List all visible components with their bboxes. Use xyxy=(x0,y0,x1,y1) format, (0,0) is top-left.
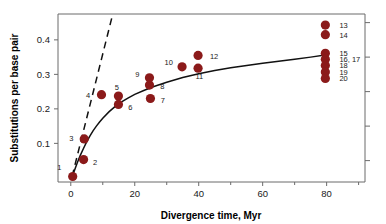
chart-canvas: 12345678910111213141516, 17181920 020406… xyxy=(0,0,386,224)
y-axis-title: Substitutions per base pair xyxy=(9,33,20,162)
x-tick-label: 0 xyxy=(68,188,73,199)
data-point-label: 10 xyxy=(164,58,172,67)
data-point-label: 8 xyxy=(160,82,164,91)
data-point-label: 20 xyxy=(339,74,347,83)
data-point-markers xyxy=(68,20,330,181)
data-point-label: 7 xyxy=(161,96,165,105)
data-point-marker xyxy=(321,30,330,39)
data-point-label: 12 xyxy=(210,52,218,61)
data-point-label: 3 xyxy=(69,134,73,143)
data-point-label: 14 xyxy=(339,31,347,40)
data-point-label: 11 xyxy=(195,72,203,81)
data-point-marker xyxy=(146,94,155,103)
y-axis-tick-labels: 0.10.20.30.4 xyxy=(37,34,50,148)
y-tick-label: 0.1 xyxy=(37,138,50,149)
y-tick-label: 0.4 xyxy=(37,34,50,45)
x-tick-label: 60 xyxy=(257,188,268,199)
data-point-label: 1 xyxy=(57,163,61,172)
y-tick-label: 0.2 xyxy=(37,103,50,114)
data-point-marker xyxy=(97,90,106,99)
data-point-label: 6 xyxy=(128,103,132,112)
linear-extrapolation-dashed-line xyxy=(72,14,113,176)
data-point-marker xyxy=(80,134,89,143)
x-axis-major-ticks xyxy=(71,182,327,186)
y-tick-label: 0.3 xyxy=(37,69,50,80)
x-tick-label: 80 xyxy=(321,188,332,199)
data-point-marker xyxy=(321,74,330,83)
y-axis-minor-ticks xyxy=(365,23,370,161)
data-point-marker xyxy=(79,155,88,164)
y-axis-major-ticks xyxy=(54,40,58,143)
data-point-label: 4 xyxy=(86,91,90,100)
substitution-saturation-chart: 12345678910111213141516, 17181920 020406… xyxy=(0,0,386,224)
data-point-label: 13 xyxy=(339,21,347,30)
x-tick-label: 40 xyxy=(193,188,204,199)
data-point-label: 9 xyxy=(135,70,139,79)
data-point-marker xyxy=(68,172,77,181)
x-tick-label: 20 xyxy=(129,188,140,199)
data-point-label: 5 xyxy=(115,83,119,92)
data-point-label: 2 xyxy=(93,158,97,167)
data-point-marker xyxy=(177,62,186,71)
data-point-marker xyxy=(321,20,330,29)
data-point-marker xyxy=(114,92,123,101)
x-axis-tick-labels: 020406080 xyxy=(68,188,332,199)
data-point-marker xyxy=(114,100,123,109)
data-point-marker xyxy=(145,73,154,82)
x-axis-title: Divergence time, Myr xyxy=(161,210,262,221)
data-point-marker xyxy=(193,51,202,60)
